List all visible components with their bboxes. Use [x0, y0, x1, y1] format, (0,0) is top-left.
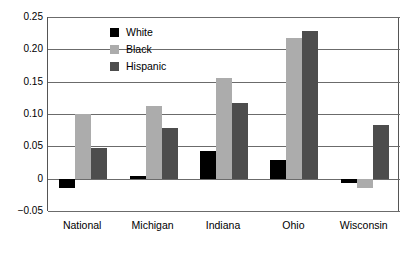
- bar-michigan-black: [146, 106, 162, 179]
- y-tick-label: 0.25: [3, 12, 43, 22]
- y-tick-label: 0.05: [3, 141, 43, 151]
- hispanic-swatch-icon: [110, 62, 119, 71]
- bar-ohio-hispanic: [302, 31, 318, 178]
- legend-label: White: [126, 27, 153, 38]
- x-tick-label-ohio: Ohio: [282, 219, 304, 231]
- bar-ohio-black: [286, 38, 302, 179]
- bar-chart: 0.250.200.150.100.050−0.05 NationalMichi…: [0, 0, 407, 253]
- y-tick-label: 0.10: [3, 109, 43, 119]
- bar-national-hispanic: [91, 148, 107, 179]
- bar-indiana-white: [200, 151, 216, 179]
- legend-label: Black: [126, 44, 152, 55]
- bar-wisconsin-hispanic: [373, 125, 389, 179]
- chart-legend: WhiteBlackHispanic: [110, 24, 166, 75]
- bar-wisconsin-black: [357, 179, 373, 189]
- legend-item-white: White: [110, 24, 166, 41]
- gridline-0-2: [48, 49, 400, 50]
- x-tick-label-wisconsin: Wisconsin: [340, 219, 388, 231]
- legend-item-black: Black: [110, 41, 166, 58]
- bar-michigan-hispanic: [162, 128, 178, 179]
- plot-area: [47, 17, 399, 211]
- y-axis: 0.250.200.150.100.050−0.05: [0, 0, 43, 253]
- x-tick-label-indiana: Indiana: [206, 219, 240, 231]
- y-tick-label: 0: [3, 174, 43, 184]
- gridline--0-05: [48, 211, 400, 212]
- bar-national-black: [75, 114, 91, 179]
- y-tick-label: 0.20: [3, 44, 43, 54]
- x-tick-label-michigan: Michigan: [132, 219, 174, 231]
- bar-wisconsin-white: [341, 179, 357, 183]
- legend-item-hispanic: Hispanic: [110, 58, 166, 75]
- x-tick-label-national: National: [63, 219, 102, 231]
- bar-indiana-hispanic: [232, 103, 248, 179]
- legend-label: Hispanic: [126, 61, 166, 72]
- black-swatch-icon: [110, 45, 119, 54]
- bar-ohio-white: [270, 160, 286, 179]
- y-tick-label: −0.05: [3, 206, 43, 216]
- gridline-0-25: [48, 17, 400, 18]
- bar-michigan-white: [130, 176, 146, 179]
- y-tick-label: 0.15: [3, 77, 43, 87]
- white-swatch-icon: [110, 28, 119, 37]
- bar-national-white: [59, 179, 75, 188]
- bar-indiana-black: [216, 78, 232, 178]
